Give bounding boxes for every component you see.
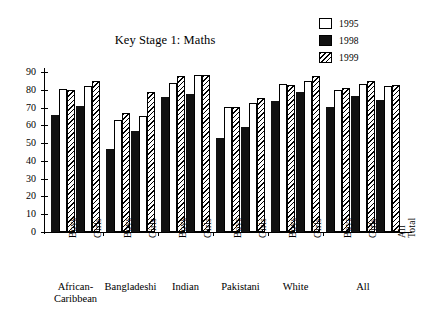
legend-label-1995: 1995 — [339, 19, 359, 29]
x-axis-category-label: Boys — [288, 198, 298, 238]
bar — [326, 107, 334, 232]
y-axis-tick-label: 70 — [14, 101, 36, 115]
bar — [279, 84, 287, 232]
x-axis-category-label: AllTotal — [397, 198, 417, 238]
y-axis-tick-label: 10 — [14, 207, 36, 221]
legend-item-1999: 1999 — [319, 49, 419, 66]
legend-swatch-1995-icon — [319, 18, 332, 29]
x-axis-group-label-line: Caribbean — [31, 293, 121, 305]
x-axis-category-label: Boys — [343, 198, 353, 238]
legend-item-1998: 1998 — [319, 32, 419, 49]
chart-title: Key Stage 1: Maths — [0, 33, 330, 48]
x-axis-category-label: Boys — [233, 198, 243, 238]
y-axis-tick-label: 40 — [14, 154, 36, 168]
bar — [271, 101, 279, 232]
bar — [169, 83, 177, 232]
bar — [106, 149, 114, 232]
legend-label-1998: 1998 — [339, 36, 359, 46]
bar — [334, 90, 342, 232]
y-axis-tick-label: 60 — [14, 118, 36, 132]
y-axis-tick-label: 50 — [14, 136, 36, 150]
legend-label-1999: 1999 — [339, 53, 359, 63]
x-axis-group-label: All — [318, 281, 408, 293]
bar — [51, 115, 59, 232]
x-axis-category-label-line: All — [397, 198, 407, 238]
x-axis-category-label: Girls — [93, 198, 103, 238]
x-axis-category-label: Boys — [178, 198, 188, 238]
x-axis-category-label: Boys — [123, 198, 133, 238]
x-axis-group-label-line: All — [318, 281, 408, 293]
legend-swatch-1999-icon — [319, 52, 332, 63]
bar — [194, 75, 202, 232]
bar — [59, 89, 67, 232]
chart-container: 1995 1998 1999 Key Stage 1: Maths 908070… — [0, 0, 426, 317]
bar — [359, 84, 367, 232]
x-axis-category-label: Girls — [368, 198, 378, 238]
bar — [384, 86, 392, 232]
bar — [216, 138, 224, 232]
y-axis-tick-label: 90 — [14, 65, 36, 79]
x-axis-category-label-line: Total — [407, 198, 417, 238]
bar — [224, 107, 232, 232]
x-axis-category-label: Girls — [203, 198, 213, 238]
bar — [84, 86, 92, 232]
y-axis-tick-label: 30 — [14, 172, 36, 186]
x-axis-category-label: Girls — [258, 198, 268, 238]
y-axis-tick: 0 — [41, 232, 48, 233]
y-axis-tick-label: 0 — [14, 225, 36, 239]
bar — [249, 103, 257, 232]
chart-legend: 1995 1998 1999 — [319, 15, 419, 66]
x-axis-category-label: Girls — [313, 198, 323, 238]
bar — [304, 81, 312, 232]
bar — [161, 97, 169, 232]
legend-item-1995: 1995 — [319, 15, 419, 32]
x-axis-category-label: Girls — [148, 198, 158, 238]
x-axis-category-label: Boys — [68, 198, 78, 238]
bar — [114, 120, 122, 232]
bar — [139, 116, 147, 232]
y-axis-tick-label: 80 — [14, 83, 36, 97]
y-axis-tick-label: 20 — [14, 189, 36, 203]
